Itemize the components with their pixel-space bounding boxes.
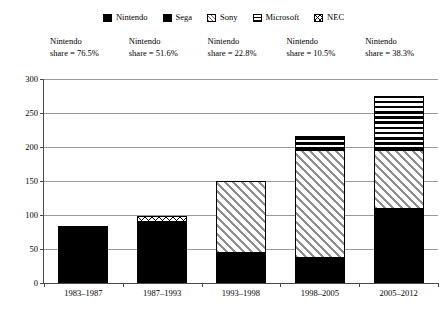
annotation-line-2: share = 51.6% (129, 48, 202, 60)
x-tick-mark (280, 283, 281, 287)
y-tick-label: 100 (0, 210, 38, 220)
stacked-bar[interactable] (137, 216, 187, 283)
legend-label: Nintendo (116, 13, 148, 22)
y-tick-mark (40, 215, 44, 216)
x-tick-label: 1987–1993 (123, 288, 202, 299)
annotation-line-2: share = 10.5% (286, 48, 359, 60)
bar-segment-nintendo[interactable] (59, 240, 107, 282)
legend-label: NEC (327, 13, 344, 22)
bar-column-2005–2012 (359, 79, 438, 283)
legend-item-sega[interactable]: Sega (163, 13, 193, 22)
legend-swatch-nec-icon (314, 14, 323, 22)
bar-segment-microsoft[interactable] (296, 137, 344, 152)
legend-label: Sega (176, 13, 193, 22)
legend-label: Sony (220, 13, 237, 22)
legend-swatch-microsoft-icon (253, 14, 262, 22)
x-tick-mark (359, 283, 360, 287)
stacked-bar[interactable] (216, 181, 266, 283)
x-tick-mark (123, 283, 124, 287)
annotation-line-2: share = 76.5% (50, 48, 123, 60)
legend-label: Microsoft (266, 13, 300, 22)
chart-legend: NintendoSegaSonyMicrosoftNEC (0, 13, 447, 22)
bar-segment-microsoft[interactable] (375, 97, 423, 151)
y-tick-label: 50 (0, 244, 38, 254)
annotation-1: Nintendoshare = 51.6% (123, 36, 202, 68)
y-tick-label: 150 (0, 176, 38, 186)
bar-column-1998–2005 (280, 79, 359, 283)
x-axis-line (43, 283, 438, 284)
bar-segment-sony[interactable] (217, 182, 265, 253)
legend-swatch-sega-icon (163, 14, 172, 22)
nintendo-share-annotations: Nintendoshare = 76.5%Nintendoshare = 51.… (44, 36, 438, 68)
legend-item-nec[interactable]: NEC (314, 13, 344, 22)
annotation-2: Nintendoshare = 22.8% (202, 36, 281, 68)
legend-item-sony[interactable]: Sony (207, 13, 237, 22)
annotation-line-2: share = 38.3% (365, 48, 438, 60)
bar-segment-sega[interactable] (296, 258, 344, 267)
bar-segment-nintendo[interactable] (138, 249, 186, 282)
bar-segment-sega[interactable] (138, 222, 186, 249)
y-tick-label: 0 (0, 278, 38, 288)
bar-series-container (44, 79, 438, 283)
annotation-3: Nintendoshare = 10.5% (280, 36, 359, 68)
bar-column-1987–1993 (123, 79, 202, 283)
x-axis-labels: 1983–19871987–19931993–19981998–20052005… (44, 288, 438, 299)
stacked-bar[interactable] (374, 96, 424, 283)
bar-segment-nintendo[interactable] (375, 209, 423, 282)
stacked-bar[interactable] (58, 226, 108, 283)
y-tick-label: 250 (0, 108, 38, 118)
y-tick-mark (40, 147, 44, 148)
bar-column-1993–1998 (202, 79, 281, 283)
legend-item-microsoft[interactable]: Microsoft (253, 13, 300, 22)
bar-segment-sony[interactable] (375, 151, 423, 209)
bar-segment-nintendo[interactable] (296, 267, 344, 282)
legend-item-nintendo[interactable]: Nintendo (103, 13, 148, 22)
y-axis-labels: 050100150200250300 (0, 72, 38, 290)
y-tick-mark (40, 79, 44, 80)
annotation-line-1: Nintendo (208, 36, 281, 48)
y-tick-label: 300 (0, 74, 38, 84)
bar-column-1983–1987 (44, 79, 123, 283)
annotation-0: Nintendoshare = 76.5% (44, 36, 123, 68)
annotation-line-1: Nintendo (365, 36, 438, 48)
bar-segment-sony[interactable] (296, 151, 344, 258)
bar-segment-nintendo[interactable] (217, 260, 265, 282)
y-tick-mark (40, 181, 44, 182)
annotation-4: Nintendoshare = 38.3% (359, 36, 438, 68)
stacked-bar[interactable] (295, 136, 345, 283)
legend-swatch-sony-icon (207, 14, 216, 22)
x-tick-mark (438, 283, 439, 287)
x-tick-label: 2005–2012 (359, 288, 438, 299)
bar-segment-sega[interactable] (59, 227, 107, 240)
x-tick-mark (202, 283, 203, 287)
x-tick-mark (44, 283, 45, 287)
y-tick-mark (40, 113, 44, 114)
annotation-line-1: Nintendo (286, 36, 359, 48)
annotation-line-1: Nintendo (50, 36, 123, 48)
y-tick-label: 200 (0, 142, 38, 152)
legend-swatch-nintendo-icon (103, 14, 112, 22)
x-tick-label: 1993–1998 (202, 288, 281, 299)
annotation-line-1: Nintendo (129, 36, 202, 48)
x-tick-label: 1983–1987 (44, 288, 123, 299)
y-tick-mark (40, 249, 44, 250)
annotation-line-2: share = 22.8% (208, 48, 281, 60)
x-tick-label: 1998–2005 (280, 288, 359, 299)
